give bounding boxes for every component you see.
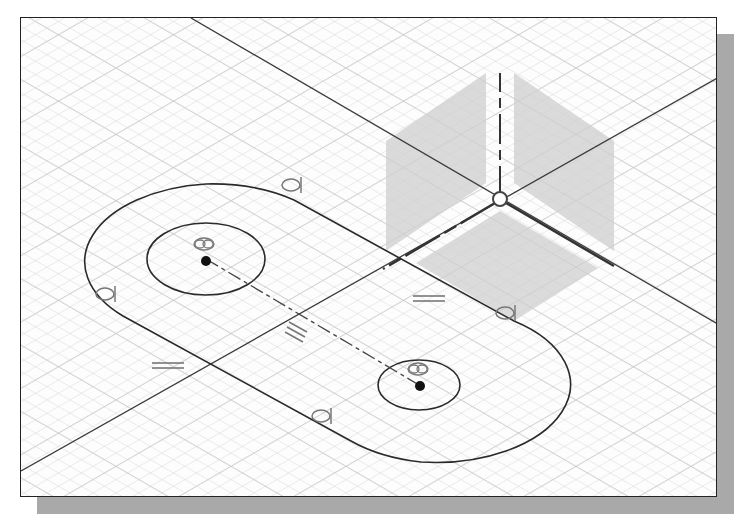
center-point-large[interactable] <box>201 256 211 266</box>
isometric-grid <box>21 18 716 496</box>
center-point-small[interactable] <box>415 381 425 391</box>
origin-point <box>493 192 507 206</box>
sketch-canvas[interactable] <box>21 18 716 496</box>
sketch-viewport[interactable] <box>20 17 717 497</box>
